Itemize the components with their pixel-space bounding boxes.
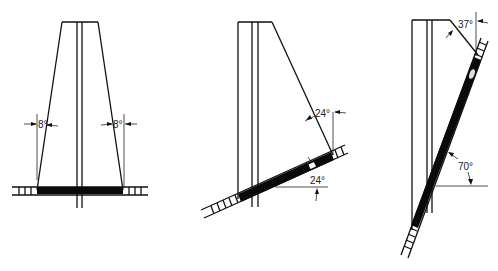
- fig2-lower-angle-arrow: [315, 188, 319, 201]
- fig1-platform: [37, 187, 123, 194]
- fig1-left-side: [37, 22, 62, 190]
- figure-2: 24° 24°: [201, 22, 348, 218]
- fig3-platform: [411, 57, 481, 228]
- fig2-slanted-side: [272, 22, 333, 155]
- figure-3: 37° 70°: [401, 12, 488, 258]
- fig3-top-angle-label: 37°: [458, 19, 473, 30]
- diagram-canvas: 8° 8°: [0, 0, 498, 271]
- fig1-right-angle-label: 8°: [113, 119, 123, 130]
- fig2-upper-angle-label: 24°: [315, 108, 330, 119]
- fig1-left-angle-label: 8°: [38, 119, 48, 130]
- fig3-ladder-rail-right: [408, 41, 488, 258]
- fig1-right-side: [98, 22, 123, 190]
- figure-1: 8° 8°: [12, 22, 148, 208]
- fig2-lower-angle-label: 24°: [310, 175, 325, 186]
- fig3-lower-angle-label: 70°: [458, 161, 473, 172]
